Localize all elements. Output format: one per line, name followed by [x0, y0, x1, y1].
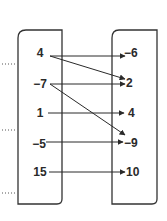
range-value: −6 [124, 46, 138, 60]
domain-value: −5 [32, 137, 46, 151]
mapping-diagram: 4 −7 1 −5 15 −6 2 4 −9 10 [0, 0, 167, 221]
domain-value: 4 [37, 46, 44, 60]
mapping-arrows [46, 56, 125, 172]
range-value: 2 [126, 76, 133, 90]
range-value: −9 [124, 136, 138, 150]
range-value: 4 [128, 106, 135, 120]
domain-value: 15 [33, 165, 47, 179]
domain-value: 1 [37, 106, 44, 120]
range-value: 10 [126, 165, 140, 179]
dotted-marks [2, 64, 16, 193]
arrow-neg7-to-neg9 [50, 84, 125, 135]
domain-value: −7 [33, 77, 47, 91]
arrow-4-to-2 [50, 56, 125, 79]
